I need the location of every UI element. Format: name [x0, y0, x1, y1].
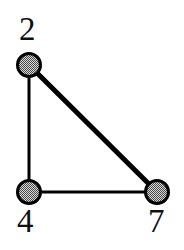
edge-layer: [29, 65, 157, 192]
graph-node-4[interactable]: [18, 181, 41, 204]
node-label-4: 4: [17, 205, 34, 238]
edge-2-7: [29, 65, 157, 192]
graph-node-2[interactable]: [18, 54, 41, 77]
graph-diagram: 2 4 7: [0, 0, 184, 250]
node-label-7: 7: [148, 205, 165, 238]
graph-node-7[interactable]: [146, 181, 169, 204]
node-label-2: 2: [19, 13, 36, 46]
